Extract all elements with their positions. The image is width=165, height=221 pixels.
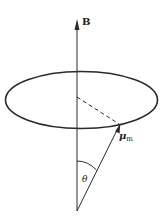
field-arrowhead-icon <box>75 19 80 30</box>
moment-label: μm <box>119 130 133 143</box>
angle-arc <box>77 161 97 170</box>
angle-label: θ <box>82 174 88 184</box>
precession-orbit <box>6 72 158 129</box>
projection-dashed-line <box>77 97 119 124</box>
precession-diagram: B μm θ <box>0 0 165 221</box>
field-label: B <box>82 16 90 27</box>
moment-vector-line <box>77 128 118 211</box>
